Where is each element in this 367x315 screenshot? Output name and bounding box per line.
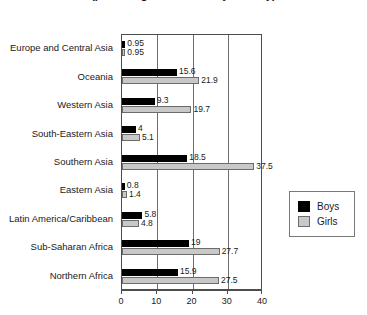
- bar-value-label: 19: [189, 238, 200, 247]
- bar-value-label: 37.5: [254, 162, 273, 171]
- legend-swatch-girls: [298, 216, 310, 227]
- bar-girls: [122, 163, 254, 170]
- bar-value-label: 27.5: [219, 276, 238, 285]
- x-tick-label: 30: [222, 296, 232, 306]
- bar-value-label: 1.4: [127, 190, 141, 199]
- bar-group: 5.84.8: [122, 206, 261, 234]
- category-label: Oceania: [0, 71, 113, 82]
- x-tick: [261, 290, 262, 294]
- bar-value-label: 15.6: [177, 67, 196, 76]
- bar-group: 1927.7: [122, 234, 261, 262]
- bar-value-label: 19.7: [191, 105, 210, 114]
- bar-value-label: 5.1: [140, 133, 154, 142]
- x-axis: 010203040: [121, 290, 262, 312]
- x-tick-label: 20: [186, 296, 196, 306]
- bar-girls: [122, 277, 219, 284]
- bar-girls: [122, 220, 139, 227]
- category-label: Northern Africa: [0, 270, 113, 281]
- bar-value-label: 18.5: [187, 153, 206, 162]
- bar-group: 0.950.95: [122, 35, 261, 63]
- bar-boys: [122, 98, 155, 105]
- x-tick: [227, 290, 228, 294]
- x-tick-label: 10: [151, 296, 161, 306]
- chart-legend: BoysGirls: [289, 191, 355, 237]
- bar-value-label: 27.7: [220, 247, 239, 256]
- legend-item: Girls: [298, 214, 346, 229]
- x-tick: [121, 290, 122, 294]
- bar-value-label: 9.3: [155, 96, 169, 105]
- category-label: Sub-Saharan Africa: [0, 241, 113, 252]
- category-label: Eastern Asia: [0, 184, 113, 195]
- x-tick-label: 40: [257, 296, 267, 306]
- bar-chart: (percentage of children by country) Euro…: [0, 0, 367, 315]
- category-label: Southern Asia: [0, 156, 113, 167]
- x-tick: [192, 290, 193, 294]
- bar-boys: [122, 69, 177, 76]
- x-tick: [156, 290, 157, 294]
- bar-boys: [122, 240, 189, 247]
- plot-area: 0.950.9515.621.99.319.745.118.537.50.81.…: [121, 34, 262, 290]
- bar-value-label: 21.9: [199, 76, 218, 85]
- category-label: South-Eastern Asia: [0, 128, 113, 139]
- legend-label: Girls: [317, 216, 338, 227]
- bar-boys: [122, 212, 142, 219]
- bar-group: 15.927.5: [122, 263, 261, 291]
- bar-girls: [122, 248, 220, 255]
- category-label: Europe and Central Asia: [0, 42, 113, 53]
- bar-girls: [122, 106, 191, 113]
- x-tick-label: 0: [118, 296, 123, 306]
- bar-value-label: 4.8: [139, 219, 153, 228]
- bar-boys: [122, 155, 187, 162]
- chart-title: (percentage of children by country): [0, 0, 367, 2]
- bar-group: 18.537.5: [122, 149, 261, 177]
- bar-boys: [122, 269, 178, 276]
- legend-swatch-boys: [298, 201, 310, 212]
- bar-girls: [122, 77, 199, 84]
- legend-label: Boys: [317, 201, 339, 212]
- category-axis: Europe and Central AsiaOceaniaWestern As…: [0, 34, 117, 290]
- bar-value-label: 0.95: [125, 48, 144, 57]
- category-label: Western Asia: [0, 99, 113, 110]
- category-label: Latin America/Caribbean: [0, 213, 113, 224]
- legend-item: Boys: [298, 199, 346, 214]
- bar-group: 15.621.9: [122, 63, 261, 91]
- bar-boys: [122, 126, 136, 133]
- bar-group: 45.1: [122, 120, 261, 148]
- bar-girls: [122, 134, 140, 141]
- bar-group: 9.319.7: [122, 92, 261, 120]
- bar-value-label: 15.9: [178, 267, 197, 276]
- bar-group: 0.81.4: [122, 177, 261, 205]
